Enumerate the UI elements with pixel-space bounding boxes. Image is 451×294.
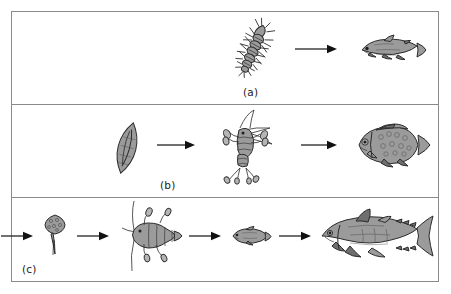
arrow-copepod-to-bream [300, 139, 338, 151]
panel-b: (b) [12, 104, 438, 197]
large-copepod-organism [116, 200, 182, 272]
bristly-larva-organism [230, 18, 278, 80]
bream-fish-organism [350, 119, 432, 171]
food-chain-b [12, 107, 432, 183]
panel-b-label: (b) [160, 179, 175, 191]
food-chain-a [12, 16, 430, 82]
arrow-diatom-to-copepod [156, 139, 196, 151]
panel-a: (a) [12, 12, 438, 104]
food-chain-c [20, 200, 434, 272]
copepod-organism [210, 106, 286, 184]
dinoflagellate-organism [42, 212, 68, 256]
figure-frame: (a) [11, 11, 439, 282]
arrow-small-fish-to-tuna [278, 230, 312, 242]
arrow-larva-to-trout [294, 43, 338, 55]
arrow-diatom-to-flagellate [0, 230, 34, 242]
tuna-fish-organism [316, 208, 434, 264]
pennate-diatom-organism [112, 120, 142, 176]
trout-fish-organism [354, 31, 428, 67]
small-fish-organism [228, 224, 272, 248]
panel-c: (c) [12, 197, 438, 281]
panel-c-label: (c) [22, 263, 37, 275]
arrow-copepod-to-small-fish [188, 230, 222, 242]
panel-a-label: (a) [243, 86, 258, 98]
arrow-flagellate-to-copepod [76, 230, 110, 242]
